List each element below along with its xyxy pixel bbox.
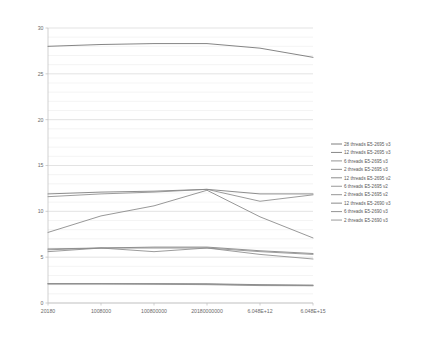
y-axis-tick-label: 20 — [38, 117, 44, 123]
axes — [46, 28, 314, 306]
y-axis-tick-label: 30 — [38, 25, 44, 31]
legend-label-0: 28 threads E5-2695 v3 — [344, 142, 391, 147]
legend-label-1: 12 threads E5-2695 v3 — [344, 150, 391, 155]
y-axis-tick-label: 25 — [38, 71, 44, 77]
chart-legend: 28 threads E5-2695 v312 threads E5-2695 … — [331, 142, 391, 223]
line-chart: 051015202530 201801008000100800000201800… — [0, 0, 426, 337]
chart-container: 051015202530 201801008000100800000201800… — [0, 0, 426, 337]
series-line-2 — [48, 189, 313, 201]
legend-label-7: 12 threads E5-2690 v3 — [344, 201, 391, 206]
x-axis-tick-label: 100800000 — [141, 308, 167, 314]
data-series-lines — [48, 44, 313, 286]
x-axis-tick-label: 20180000000 — [191, 308, 223, 314]
y-axis-tick-label: 10 — [38, 208, 44, 214]
gridlines — [48, 28, 313, 303]
x-axis-tick-label: 6.048E+15 — [300, 308, 325, 314]
legend-label-4: 12 threads E5-2695 v2 — [344, 176, 391, 181]
x-axis-tick-labels: 201801008000100800000201800000006.048E+1… — [41, 308, 326, 314]
legend-label-3: 2 threads E5-2695 v3 — [344, 167, 388, 172]
x-axis-tick-label: 20180 — [41, 308, 56, 314]
legend-label-8: 6 threads E5-2690 v3 — [344, 209, 388, 214]
legend-label-6: 2 threads E5-2695 v2 — [344, 192, 388, 197]
series-line-3 — [48, 190, 313, 238]
x-axis-tick-label: 6.048E+12 — [247, 308, 272, 314]
y-axis-tick-label: 5 — [41, 254, 44, 260]
legend-label-2: 6 threads E5-2695 v3 — [344, 159, 388, 164]
y-axis-tick-label: 15 — [38, 162, 44, 168]
legend-label-5: 6 threads E5-2695 v2 — [344, 184, 388, 189]
y-axis-tick-labels: 051015202530 — [38, 25, 44, 306]
y-axis-tick-label: 0 — [41, 300, 44, 306]
legend-label-9: 2 threads E5-2690 v3 — [344, 218, 388, 223]
x-axis-tick-label: 1008000 — [91, 308, 111, 314]
